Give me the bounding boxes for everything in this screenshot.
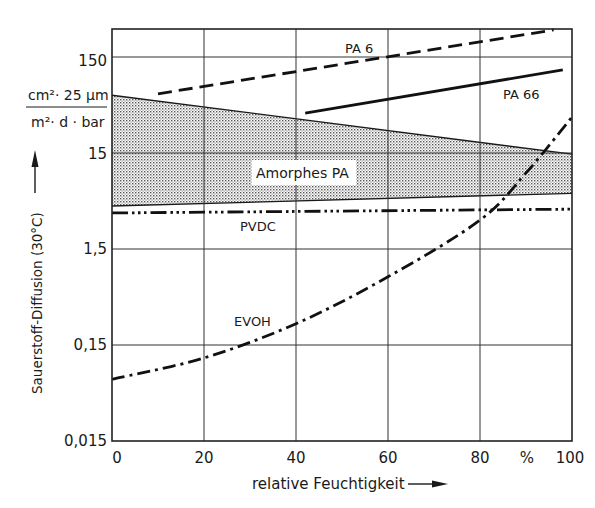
series-label-pa66: PA 66 — [503, 87, 540, 102]
series-label-amorphes-pa: Amorphes PA — [256, 165, 349, 181]
x-tick-label: 100 — [556, 449, 585, 467]
series-line-pvdc — [112, 209, 572, 213]
x-axis-arrow-icon — [408, 481, 448, 488]
x-tick-label: 80 — [470, 449, 489, 467]
x-tick-label: 0 — [112, 449, 122, 467]
x-axis-title: relative Feuchtigkeit — [252, 475, 405, 493]
y-tick-label: 15 — [88, 145, 107, 163]
series-line-pa-6 — [158, 30, 554, 94]
series-label-evoh: EVOH — [234, 314, 271, 329]
y-axis-arrow-icon — [32, 150, 39, 193]
amorphes-pa-area — [112, 95, 572, 206]
x-tick-label: 60 — [378, 449, 397, 467]
y-tick-label: 150 — [78, 52, 107, 70]
y-tick-label: 1,5 — [83, 240, 107, 258]
x-unit-label: % — [520, 449, 534, 467]
series-label-pvdc: PVDC — [240, 219, 276, 234]
oxygen-diffusion-chart: PA 6 PA 66 Amorphes PA PVDC EVOH 150 15 … — [0, 0, 595, 508]
x-tick-label: 20 — [194, 449, 213, 467]
y-tick-label: 0,15 — [74, 336, 107, 354]
amorphes-pa-band — [112, 95, 572, 206]
x-tick-label: 40 — [286, 449, 305, 467]
y-unit-numerator: cm²· 25 µm — [28, 87, 109, 103]
y-unit-denominator: m²· d · bar — [31, 114, 105, 130]
y-tick-label: 0,015 — [64, 432, 107, 450]
y-axis-title: Sauerstoff-Diffusion (30°C) — [29, 212, 45, 394]
series-label-pa6: PA 6 — [345, 41, 373, 56]
